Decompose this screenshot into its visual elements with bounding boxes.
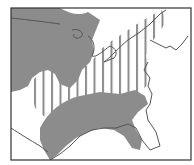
range-map <box>0 0 194 165</box>
